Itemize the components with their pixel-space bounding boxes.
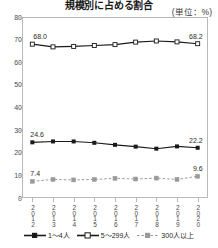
data-point-marker — [30, 42, 34, 46]
x-tick-label: 2015 — [91, 204, 98, 226]
data-point-marker — [154, 39, 158, 43]
x-tick-label: 2013 — [50, 204, 57, 226]
chart-legend: 1〜4人5〜299人300人以上 — [0, 231, 218, 240]
data-point-marker — [154, 176, 158, 180]
data-point-marker — [113, 176, 117, 180]
data-point-marker — [113, 143, 117, 147]
data-point-marker — [134, 40, 138, 44]
legend-item-label: 300人以上 — [161, 232, 194, 240]
x-tick-mark — [136, 198, 137, 202]
x-tick-mark — [177, 198, 178, 202]
data-point-marker — [113, 43, 117, 47]
x-tick-mark — [53, 198, 54, 202]
data-point-marker — [51, 139, 55, 143]
data-value-label: 7.4 — [30, 170, 40, 177]
x-tick-mark — [156, 198, 157, 202]
legend-item[interactable]: 1〜4人 — [24, 231, 70, 240]
data-point-marker — [196, 174, 200, 178]
legend-item-label: 5〜299人 — [101, 232, 131, 240]
unit-note: (単位：%) — [172, 5, 212, 17]
data-point-marker — [92, 177, 96, 181]
data-value-label: 68.0 — [33, 33, 47, 40]
open-square-icon — [77, 231, 99, 240]
filled-square-icon — [24, 231, 46, 240]
legend-item-label: 1〜4人 — [48, 232, 70, 240]
data-point-marker — [196, 146, 200, 150]
data-point-marker — [30, 179, 34, 183]
data-point-marker — [92, 44, 96, 48]
x-tick-mark — [94, 198, 95, 202]
x-tick-mark — [74, 198, 75, 202]
x-tick-mark — [198, 198, 199, 202]
x-tick-label: 2016 — [112, 204, 119, 226]
y-tick-mark — [18, 198, 22, 199]
data-point-marker — [72, 44, 76, 48]
data-point-marker — [175, 177, 179, 181]
data-point-marker — [196, 42, 200, 46]
gray-square-icon — [137, 231, 159, 240]
data-point-marker — [175, 40, 179, 44]
data-point-marker — [72, 178, 76, 182]
x-tick-label: 2019 — [174, 204, 181, 226]
data-value-label: 22.2 — [189, 137, 203, 144]
x-tick-mark — [115, 198, 116, 202]
data-point-marker — [154, 147, 158, 151]
data-value-label: 24.6 — [30, 131, 44, 138]
data-point-marker — [51, 45, 55, 49]
data-point-marker — [92, 141, 96, 145]
legend-item[interactable]: 5〜299人 — [77, 231, 131, 240]
data-point-marker — [51, 177, 55, 181]
x-tick-label: 2018 — [153, 204, 160, 226]
series-filled-square — [30, 139, 199, 150]
data-point-marker — [30, 140, 34, 144]
chart-container: 規模別に占める割合 (単位：%) 80706050403020100 20122… — [0, 0, 218, 248]
data-value-label: 9.6 — [193, 165, 203, 172]
data-value-label: 68.2 — [189, 33, 203, 40]
x-tick-label: 2014 — [70, 204, 77, 226]
x-tick-label: 2012 — [29, 204, 36, 226]
series-gray-square — [30, 174, 199, 183]
data-point-marker — [134, 177, 138, 181]
x-tick-label: 2017 — [132, 204, 139, 226]
data-point-marker — [134, 145, 138, 149]
chart-plot — [22, 17, 208, 198]
x-tick-mark — [32, 198, 33, 202]
legend-item[interactable]: 300人以上 — [137, 231, 194, 240]
data-point-marker — [175, 144, 179, 148]
series-open-square — [30, 39, 199, 49]
x-tick-label: 2020 — [194, 204, 201, 226]
data-point-marker — [72, 139, 76, 143]
